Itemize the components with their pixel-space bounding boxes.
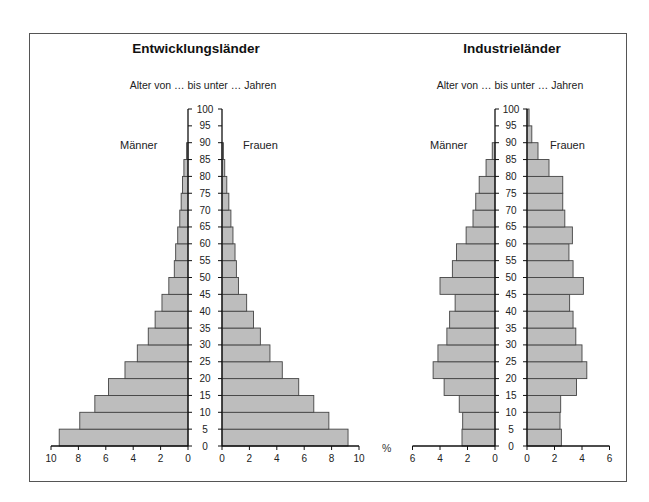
bar-female-70-75 bbox=[527, 193, 563, 210]
age-tick-label: 95 bbox=[505, 120, 517, 131]
age-tick-label: 35 bbox=[199, 323, 211, 334]
bar-female-45-50 bbox=[527, 278, 583, 295]
age-tick-label: 45 bbox=[505, 289, 517, 300]
x-tick-label-male: 4 bbox=[130, 453, 136, 464]
bar-male-50-55 bbox=[174, 261, 188, 278]
bar-male-75-80 bbox=[479, 176, 495, 193]
bar-male-60-65 bbox=[466, 227, 495, 244]
bar-male-30-35 bbox=[148, 328, 188, 345]
bar-female-40-45 bbox=[222, 294, 247, 311]
age-tick-label: 100 bbox=[197, 104, 214, 115]
bar-female-70-75 bbox=[222, 193, 229, 210]
bar-male-5-10 bbox=[463, 412, 495, 429]
bar-female-35-40 bbox=[527, 311, 573, 328]
pyramid-industrielaender: 0510152025303540455055606570758085909510… bbox=[410, 104, 613, 465]
bar-female-40-45 bbox=[527, 294, 570, 311]
age-tick-label: 90 bbox=[199, 137, 211, 148]
x-tick-label-male: 8 bbox=[76, 453, 82, 464]
age-tick-label: 100 bbox=[503, 104, 520, 115]
age-tick-label: 45 bbox=[199, 289, 211, 300]
bar-male-5-10 bbox=[80, 412, 188, 429]
age-tick-label: 80 bbox=[505, 171, 517, 182]
age-tick-label: 75 bbox=[505, 188, 517, 199]
bar-male-65-70 bbox=[180, 210, 188, 227]
bar-female-80-85 bbox=[527, 160, 549, 177]
x-tick-label-male: 2 bbox=[465, 453, 471, 464]
bar-male-35-40 bbox=[155, 311, 188, 328]
bar-female-15-20 bbox=[527, 379, 577, 396]
age-tick-label: 10 bbox=[199, 407, 211, 418]
age-tick-label: 70 bbox=[199, 205, 211, 216]
bar-female-15-20 bbox=[222, 379, 299, 396]
age-tick-label: 0 bbox=[202, 441, 208, 452]
bar-female-50-55 bbox=[527, 261, 573, 278]
bar-female-20-25 bbox=[527, 362, 587, 379]
x-tick-label-female: 0 bbox=[219, 453, 225, 464]
age-tick-label: 85 bbox=[505, 154, 517, 165]
x-tick-label-male: 6 bbox=[103, 453, 109, 464]
bar-female-75-80 bbox=[527, 176, 563, 193]
bar-male-0-5 bbox=[462, 429, 495, 446]
age-tick-label: 60 bbox=[505, 238, 517, 249]
bar-male-35-40 bbox=[450, 311, 495, 328]
bar-male-10-15 bbox=[95, 395, 188, 412]
bar-female-85-90 bbox=[527, 143, 538, 160]
bar-male-20-25 bbox=[125, 362, 188, 379]
bar-male-80-85 bbox=[486, 160, 495, 177]
x-tick-label-female: 6 bbox=[607, 453, 613, 464]
bar-female-25-30 bbox=[222, 345, 270, 362]
x-tick-label-male: 10 bbox=[45, 453, 57, 464]
age-tick-label: 50 bbox=[199, 272, 211, 283]
bar-male-60-65 bbox=[178, 227, 188, 244]
age-tick-label: 25 bbox=[199, 356, 211, 367]
bar-male-25-30 bbox=[438, 345, 495, 362]
bar-female-90-95 bbox=[527, 126, 532, 143]
bar-male-70-75 bbox=[476, 193, 495, 210]
age-tick-label: 70 bbox=[505, 205, 517, 216]
age-tick-label: 75 bbox=[199, 188, 211, 199]
x-tick-label-male: 4 bbox=[437, 453, 443, 464]
bar-male-15-20 bbox=[109, 379, 188, 396]
bar-male-40-45 bbox=[455, 294, 495, 311]
age-tick-label: 15 bbox=[505, 390, 517, 401]
age-tick-label: 80 bbox=[199, 171, 211, 182]
bar-male-50-55 bbox=[452, 261, 495, 278]
age-tick-label: 40 bbox=[199, 306, 211, 317]
x-tick-label-female: 8 bbox=[329, 453, 335, 464]
bar-female-60-65 bbox=[222, 227, 233, 244]
x-tick-label-female: 10 bbox=[353, 453, 365, 464]
age-tick-label: 65 bbox=[505, 221, 517, 232]
age-tick-label: 85 bbox=[199, 154, 211, 165]
bar-male-15-20 bbox=[444, 379, 495, 396]
bar-female-50-55 bbox=[222, 261, 236, 278]
age-tick-label: 40 bbox=[505, 306, 517, 317]
x-tick-label-male: 6 bbox=[410, 453, 416, 464]
bar-female-65-70 bbox=[527, 210, 565, 227]
x-tick-label-female: 4 bbox=[274, 453, 280, 464]
x-tick-label-female: 4 bbox=[579, 453, 585, 464]
bar-female-10-15 bbox=[222, 395, 314, 412]
bar-female-55-60 bbox=[222, 244, 235, 261]
bar-male-55-60 bbox=[176, 244, 188, 261]
age-tick-label: 60 bbox=[199, 238, 211, 249]
bar-female-0-5 bbox=[222, 429, 348, 446]
x-tick-label-male: 0 bbox=[492, 453, 498, 464]
age-tick-label: 30 bbox=[505, 339, 517, 350]
age-tick-label: 65 bbox=[199, 221, 211, 232]
bar-female-55-60 bbox=[527, 244, 569, 261]
x-tick-label-male: 0 bbox=[185, 453, 191, 464]
bar-male-45-50 bbox=[440, 278, 495, 295]
age-tick-label: 25 bbox=[505, 356, 517, 367]
x-tick-label-female: 2 bbox=[247, 453, 253, 464]
bar-female-5-10 bbox=[222, 412, 329, 429]
x-tick-label-female: 2 bbox=[552, 453, 558, 464]
bar-female-0-5 bbox=[527, 429, 561, 446]
bar-female-20-25 bbox=[222, 362, 282, 379]
x-tick-label-female: 0 bbox=[524, 453, 530, 464]
bar-male-20-25 bbox=[433, 362, 495, 379]
bar-male-25-30 bbox=[137, 345, 188, 362]
age-tick-label: 90 bbox=[505, 137, 517, 148]
age-tick-label: 20 bbox=[199, 373, 211, 384]
bar-female-30-35 bbox=[222, 328, 260, 345]
population-pyramids: 0510152025303540455055606570758085909510… bbox=[0, 0, 649, 502]
